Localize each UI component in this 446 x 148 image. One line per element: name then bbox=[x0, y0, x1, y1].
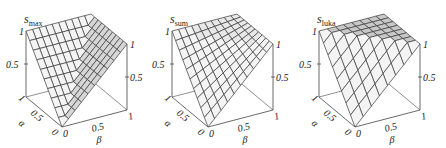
z-tick-left-1: 1 bbox=[165, 26, 170, 37]
alpha-axis-label: α bbox=[17, 117, 29, 129]
beta-tick-0: 0 bbox=[63, 128, 68, 139]
beta-tick-0: 0 bbox=[209, 128, 214, 139]
z-tick-right-0.5: 0.5 bbox=[276, 72, 289, 83]
alpha-tick-1: 1 bbox=[310, 92, 321, 104]
alpha-tick-0.5: 0.5 bbox=[322, 107, 339, 123]
alpha-tick-0: 0 bbox=[50, 126, 61, 138]
surface-plots: 10.510.500.51β00.51αsmax10.510.500.51β00… bbox=[0, 0, 446, 148]
z-tick-left-0.5: 0.5 bbox=[299, 59, 312, 70]
alpha-tick-0.5: 0.5 bbox=[29, 107, 46, 123]
alpha-tick-1: 1 bbox=[17, 92, 28, 104]
beta-tick-1: 1 bbox=[420, 110, 428, 122]
beta-axis-label: β bbox=[96, 134, 102, 145]
beta-axis-label: β bbox=[242, 134, 248, 145]
panel-s-luka: 10.510.500.51β00.51αsluka bbox=[299, 12, 436, 145]
z-tick-right-1: 1 bbox=[276, 39, 281, 50]
beta-tick-0.5: 0.5 bbox=[236, 120, 251, 134]
z-tick-right-1: 1 bbox=[130, 39, 135, 50]
alpha-axis-label: α bbox=[310, 117, 322, 129]
panel-title: sluka bbox=[317, 12, 336, 28]
z-tick-right-0.5: 0.5 bbox=[423, 72, 436, 83]
beta-tick-1: 1 bbox=[273, 110, 281, 122]
alpha-tick-0: 0 bbox=[196, 126, 207, 138]
beta-axis-label: β bbox=[389, 134, 395, 145]
z-tick-right-1: 1 bbox=[423, 39, 428, 50]
beta-tick-0.5: 0.5 bbox=[90, 120, 105, 134]
z-tick-left-0.5: 0.5 bbox=[152, 59, 165, 70]
z-tick-left-1: 1 bbox=[312, 26, 317, 37]
z-tick-right-0.5: 0.5 bbox=[130, 72, 143, 83]
alpha-tick-0: 0 bbox=[343, 126, 354, 138]
panel-s-sum: 10.510.500.51β00.51αssum bbox=[152, 12, 289, 145]
beta-tick-1: 1 bbox=[127, 110, 135, 122]
alpha-axis-label: α bbox=[163, 117, 175, 129]
beta-tick-0: 0 bbox=[356, 128, 361, 139]
alpha-tick-1: 1 bbox=[163, 92, 174, 104]
beta-tick-0.5: 0.5 bbox=[383, 120, 398, 134]
z-tick-left-0.5: 0.5 bbox=[6, 59, 19, 70]
panel-s-max: 10.510.500.51β00.51αsmax bbox=[6, 12, 143, 145]
panel-title: ssum bbox=[170, 12, 189, 28]
alpha-tick-0.5: 0.5 bbox=[175, 107, 192, 123]
panel-title: smax bbox=[24, 12, 42, 28]
figure: 10.510.500.51β00.51αsmax10.510.500.51β00… bbox=[0, 0, 446, 148]
z-tick-left-1: 1 bbox=[19, 26, 24, 37]
